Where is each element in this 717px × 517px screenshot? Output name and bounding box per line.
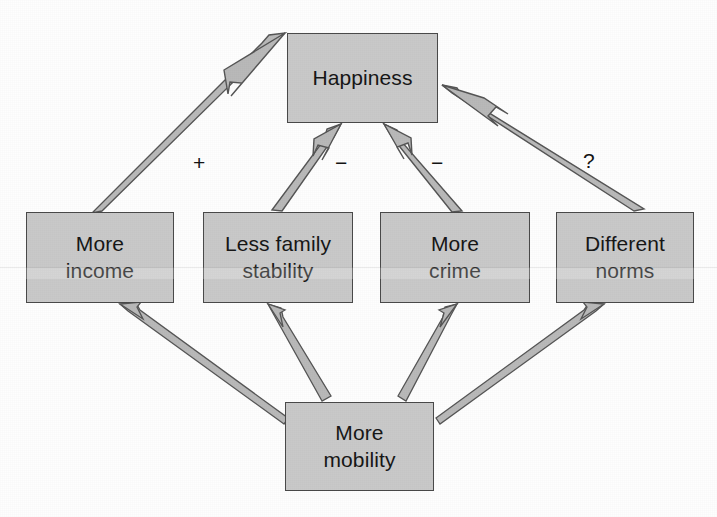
arrow-more-income-to-happiness <box>92 33 285 213</box>
arrow-mobility-to-more-income <box>120 302 288 424</box>
node-more-income-label: More income <box>66 231 134 285</box>
node-different-norms-label: Different norms <box>585 231 665 285</box>
edge-sign-income-to-happiness: + <box>193 152 205 173</box>
edge-sign-norms-to-happiness: ? <box>583 150 595 171</box>
arrow-mobility-to-less-family-stability <box>268 304 331 401</box>
edge-sign-stability-to-happiness: − <box>335 152 347 173</box>
node-more-income[interactable]: More income <box>26 212 174 303</box>
arrow-different-norms-to-happiness <box>442 85 644 211</box>
node-different-norms[interactable]: Different norms <box>556 212 694 303</box>
node-less-family-stability[interactable]: Less family stability <box>203 212 353 303</box>
node-more-crime-label: More crime <box>429 231 481 285</box>
node-happiness-label: Happiness <box>312 65 412 92</box>
node-more-mobility-label: More mobility <box>324 420 396 474</box>
edge-sign-crime-to-happiness: − <box>431 152 443 173</box>
arrow-more-crime-to-happiness <box>384 124 462 212</box>
arrow-mobility-to-different-norms <box>436 302 604 424</box>
node-less-family-stability-label: Less family stability <box>225 231 331 285</box>
arrow-less-family-stability-to-happiness <box>272 124 341 211</box>
causal-diagram-canvas: Happiness More income Less family stabil… <box>0 0 717 517</box>
node-happiness[interactable]: Happiness <box>287 33 438 123</box>
node-more-mobility[interactable]: More mobility <box>285 402 434 491</box>
arrow-mobility-to-more-crime <box>398 304 457 401</box>
node-more-crime[interactable]: More crime <box>380 212 530 303</box>
